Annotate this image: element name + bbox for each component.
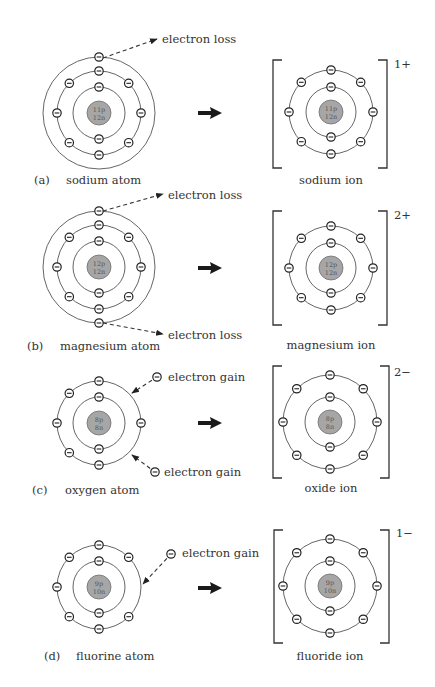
- electron-icon: [326, 629, 334, 637]
- atom-oxygen-atom: 8p8n: [53, 377, 145, 469]
- electron-icon: [326, 557, 334, 565]
- electron-icon: [326, 607, 334, 615]
- electron-loss-label: electron loss: [168, 188, 242, 202]
- proton-count: 11p: [325, 105, 337, 113]
- ionic-bonding-diagram: 11p12nelectron loss11p12n1+(a)sodium ato…: [0, 0, 435, 687]
- panel-tag: (c): [32, 483, 47, 497]
- electron-icon: [293, 451, 301, 459]
- electron-icon: [95, 625, 103, 633]
- electron-icon: [326, 443, 334, 451]
- ion-sodium-ion: 11p12n: [285, 66, 377, 158]
- panel-tag: (a): [34, 173, 50, 187]
- neutron-count: 12n: [93, 268, 105, 276]
- electron-icon: [124, 553, 132, 561]
- electron-icon: [279, 582, 287, 590]
- proton-count: 9p: [326, 579, 334, 587]
- ion-label: sodium ion: [299, 173, 363, 187]
- ion-label: fluoride ion: [296, 649, 364, 663]
- atom-label: sodium atom: [66, 173, 141, 187]
- electron-icon: [326, 535, 334, 543]
- electron-icon: [95, 393, 103, 401]
- neutron-count: 8n: [95, 424, 103, 432]
- electron-icon: [95, 445, 103, 453]
- electron-icon: [53, 419, 61, 427]
- electron-icon: [327, 222, 335, 230]
- electron-loss-indicator: electron loss: [103, 188, 242, 211]
- electron-icon: [279, 418, 287, 426]
- electron-icon: [327, 83, 335, 91]
- electron-icon: [95, 609, 103, 617]
- electron-icon: [327, 306, 335, 314]
- electron-icon: [356, 137, 364, 145]
- electron-loss-indicator: electron loss: [103, 32, 236, 58]
- electron-icon: [327, 133, 335, 141]
- reaction-arrow-icon: [198, 582, 222, 594]
- electron-icon: [95, 67, 103, 75]
- electron-icon: [369, 108, 377, 116]
- electron-icon: [297, 293, 305, 301]
- electron-gain-indicator: electron gain: [132, 455, 242, 479]
- neutron-count: 12n: [93, 114, 105, 122]
- left-bracket: [273, 60, 282, 168]
- electron-icon: [95, 151, 103, 159]
- electron-icon: [356, 293, 364, 301]
- electron-icon: [373, 582, 381, 590]
- electron-icon: [297, 234, 305, 242]
- electron-icon: [65, 553, 73, 561]
- right-bracket: [378, 211, 387, 325]
- atom-label: oxygen atom: [65, 483, 140, 497]
- electron-icon: [95, 557, 103, 565]
- electron-icon: [65, 138, 73, 146]
- reaction-arrow-icon: [198, 262, 222, 274]
- panels: 11p12nelectron loss11p12n1+(a)sodium ato…: [27, 32, 413, 663]
- electron-icon: [285, 264, 293, 272]
- atom-sodium-atom: 11p12n: [43, 53, 155, 169]
- panel-tag: (b): [27, 339, 43, 353]
- electron-icon: [53, 263, 61, 271]
- electron-icon: [137, 109, 145, 117]
- electron-icon: [297, 137, 305, 145]
- electron-icon: [95, 237, 103, 245]
- electron-icon: [95, 207, 103, 215]
- electron-icon: [359, 615, 367, 623]
- proton-count: 11p: [93, 106, 105, 114]
- ion-charge: 1−: [396, 526, 413, 540]
- electron-icon: [124, 233, 132, 241]
- electron-icon: [137, 419, 145, 427]
- proton-count: 12p: [93, 260, 105, 268]
- electron-icon: [124, 79, 132, 87]
- electron-gain-label: electron gain: [168, 370, 246, 384]
- proton-count: 8p: [95, 416, 103, 424]
- panel-b: 12p12nelectron losselectron loss12p12n2+…: [27, 188, 411, 353]
- electron-loss-label: electron loss: [168, 328, 242, 342]
- electron-gain-indicator: electron gain: [143, 546, 260, 584]
- electron-icon: [95, 221, 103, 229]
- electron-icon: [369, 264, 377, 272]
- neutron-count: 12n: [325, 269, 337, 277]
- electron-icon: [124, 612, 132, 620]
- atom-label: magnesium atom: [60, 339, 160, 353]
- ion-oxide-ion: 8p8n: [279, 371, 381, 473]
- electron-icon: [293, 385, 301, 393]
- electron-icon: [359, 549, 367, 557]
- electron-icon: [153, 373, 161, 381]
- electron-icon: [95, 541, 103, 549]
- electron-icon: [151, 468, 159, 476]
- right-bracket: [378, 60, 387, 168]
- electron-icon: [65, 79, 73, 87]
- panel-d: 9p10nelectron gain9p10n1−(d)fluorine ato…: [44, 526, 413, 663]
- electron-icon: [327, 239, 335, 247]
- left-bracket: [273, 211, 282, 325]
- electron-icon: [359, 385, 367, 393]
- neutron-count: 12n: [325, 113, 337, 121]
- atom-fluorine-atom: 9p10n: [53, 541, 141, 633]
- electron-icon: [95, 305, 103, 313]
- electron-icon: [53, 583, 61, 591]
- electron-icon: [95, 319, 103, 327]
- electron-gain-label: electron gain: [164, 465, 242, 479]
- electron-icon: [293, 615, 301, 623]
- atom-magnesium-atom: 12p12n: [43, 207, 155, 327]
- panel-c: 8p8nelectron gainelectron gain8p8n2−(c)o…: [32, 365, 411, 497]
- electron-icon: [95, 135, 103, 143]
- electron-icon: [65, 612, 73, 620]
